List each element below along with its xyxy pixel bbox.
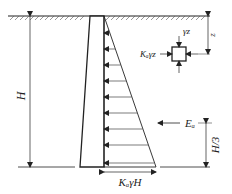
retaining-wall (80, 16, 104, 167)
resultant-force: Eₐ (158, 117, 195, 129)
depth-label: z (207, 33, 217, 38)
ground-surface (8, 16, 210, 20)
stress-element: γz Kₐγz (139, 26, 198, 73)
pressure-distribution (104, 16, 156, 167)
lateral-stress-label: Kₐγz (139, 49, 156, 59)
earth-pressure-diagram: H KₐγH γz Kₐγz z Eₐ H/3 (0, 0, 232, 194)
soil-element-square (172, 47, 186, 61)
resultant-location-label: H/3 (209, 136, 221, 154)
base-pressure-label: KₐγH (118, 176, 143, 188)
depth-dimension: z (198, 16, 217, 54)
vertical-stress-label: γz (183, 26, 191, 36)
resultant-location-dimension: H/3 (198, 123, 221, 167)
height-dimension: H (14, 16, 30, 167)
height-label: H (14, 90, 28, 101)
resultant-force-label: Eₐ (184, 117, 195, 129)
base-pressure-dimension: KₐγH (104, 172, 156, 188)
